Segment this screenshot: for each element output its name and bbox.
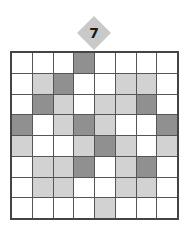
grid-cell[interactable] [116, 95, 136, 115]
grid-cell[interactable] [95, 178, 115, 198]
grid-cell[interactable] [137, 95, 157, 115]
grid-cell[interactable] [12, 74, 32, 94]
grid-cell[interactable] [157, 115, 177, 135]
grid-cell[interactable] [157, 178, 177, 198]
grid-cell[interactable] [95, 53, 115, 73]
grid-cell[interactable] [116, 198, 136, 218]
grid-cell[interactable] [54, 74, 74, 94]
level-number: 7 [77, 22, 111, 44]
grid-cell[interactable] [95, 115, 115, 135]
puzzle-grid [10, 51, 179, 220]
grid-cell[interactable] [137, 115, 157, 135]
grid-cell[interactable] [95, 198, 115, 218]
grid-cell[interactable] [33, 115, 53, 135]
grid-cell[interactable] [157, 74, 177, 94]
grid-cell[interactable] [12, 136, 32, 156]
grid-cell[interactable] [116, 115, 136, 135]
grid-cell[interactable] [12, 157, 32, 177]
grid-cell[interactable] [74, 115, 94, 135]
grid-cell[interactable] [137, 198, 157, 218]
grid-cell[interactable] [12, 198, 32, 218]
grid-cell[interactable] [74, 53, 94, 73]
grid-cell[interactable] [74, 198, 94, 218]
grid-cell[interactable] [116, 136, 136, 156]
grid-cell[interactable] [33, 53, 53, 73]
grid-cell[interactable] [95, 157, 115, 177]
grid-cell[interactable] [33, 198, 53, 218]
grid-cell[interactable] [33, 157, 53, 177]
grid-cell[interactable] [74, 136, 94, 156]
grid-cell[interactable] [95, 95, 115, 115]
grid-cell[interactable] [116, 74, 136, 94]
grid-cell[interactable] [54, 157, 74, 177]
grid-cell[interactable] [95, 74, 115, 94]
grid-cell[interactable] [95, 136, 115, 156]
grid-cell[interactable] [54, 198, 74, 218]
grid-cell[interactable] [12, 115, 32, 135]
grid-cell[interactable] [116, 178, 136, 198]
grid-cell[interactable] [12, 95, 32, 115]
grid-cell[interactable] [157, 95, 177, 115]
grid-cell[interactable] [33, 95, 53, 115]
grid-cell[interactable] [12, 178, 32, 198]
grid-cell[interactable] [137, 74, 157, 94]
grid-cell[interactable] [157, 136, 177, 156]
grid-cell[interactable] [54, 95, 74, 115]
grid-cell[interactable] [74, 95, 94, 115]
grid-cell[interactable] [33, 136, 53, 156]
grid-cell[interactable] [54, 53, 74, 73]
grid-cell[interactable] [33, 74, 53, 94]
grid-cell[interactable] [33, 178, 53, 198]
grid-cell[interactable] [116, 157, 136, 177]
grid-cell[interactable] [12, 53, 32, 73]
grid-cell[interactable] [74, 157, 94, 177]
grid-cell[interactable] [116, 53, 136, 73]
grid-cell[interactable] [137, 136, 157, 156]
grid-cell[interactable] [157, 198, 177, 218]
grid-cell[interactable] [137, 53, 157, 73]
grid-cell[interactable] [137, 157, 157, 177]
grid-cell[interactable] [137, 178, 157, 198]
grid-cell[interactable] [157, 157, 177, 177]
grid-cell[interactable] [54, 178, 74, 198]
grid-cell[interactable] [74, 178, 94, 198]
grid-cell[interactable] [74, 74, 94, 94]
grid-cell[interactable] [54, 136, 74, 156]
grid-cell[interactable] [157, 53, 177, 73]
grid-cell[interactable] [54, 115, 74, 135]
